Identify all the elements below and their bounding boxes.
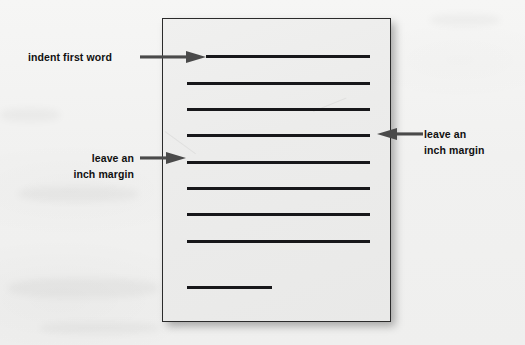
writing-line-1-indented (206, 55, 370, 58)
arrow-right-left-margin (140, 152, 186, 164)
writing-line-5 (187, 161, 370, 164)
annotation-right-margin-line-2: inch margin (424, 143, 485, 159)
scan-smudge-5 (0, 108, 60, 122)
annotation-indent-first-word-label: indent first word (28, 51, 112, 63)
writing-line-9-short (187, 286, 272, 289)
writing-line-7 (187, 213, 370, 216)
writing-line-8 (187, 240, 370, 243)
writing-line-4 (187, 134, 370, 137)
annotation-left-margin-line-2: inch margin (56, 167, 134, 183)
writing-line-6 (187, 187, 370, 190)
annotation-right-margin-line-1: leave an (424, 127, 485, 143)
scan-smudge-4 (430, 14, 500, 26)
arrow-right-indent-first-word (140, 51, 206, 63)
scan-smudge-3 (40, 322, 160, 334)
annotation-right-margin: leave an inch margin (424, 127, 485, 158)
writing-line-3 (187, 108, 370, 111)
annotation-left-margin-line-1: leave an (56, 151, 134, 167)
annotation-indent-first-word: indent first word (28, 50, 112, 66)
scan-smudge-1 (8, 278, 158, 298)
arrow-left-right-margin (375, 128, 423, 140)
lined-paper-sheet (162, 18, 391, 322)
annotation-left-margin: leave an inch margin (56, 151, 134, 182)
figure-canvas: indent first word leave an inch margin l… (0, 0, 525, 345)
scan-smudge-2 (18, 186, 138, 202)
writing-line-2 (187, 82, 370, 85)
